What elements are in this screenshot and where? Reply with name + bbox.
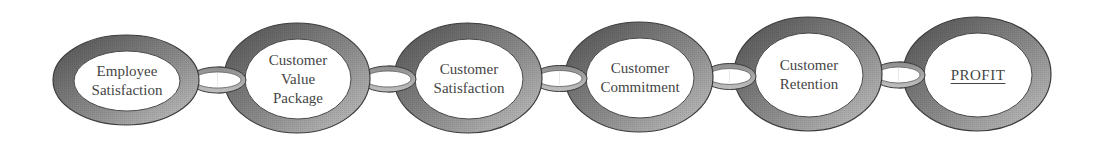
node-label-line: Package [273, 89, 323, 108]
node-label-customer-retention: CustomerRetention [755, 33, 863, 117]
node-label-line: Customer [780, 56, 838, 75]
node-label-customer-satisfaction: CustomerSatisfaction [415, 39, 523, 119]
node-label-line: Satisfaction [92, 81, 163, 100]
node-label-line: Satisfaction [434, 79, 505, 98]
node-label-profit: PROFIT [924, 33, 1032, 117]
node-label-line: Customer [611, 59, 669, 78]
node-label-line: Commitment [600, 78, 679, 97]
service-profit-chain-diagram: EmployeeSatisfactionCustomerValuePackage… [0, 0, 1099, 149]
node-label-customer-commitment: CustomerCommitment [586, 38, 694, 118]
node-label-line: Customer [440, 60, 498, 79]
node-label-line: Value [281, 70, 315, 89]
node-label-line: Customer [269, 51, 327, 70]
node-label-employee-satisfaction: EmployeeSatisfaction [74, 51, 180, 111]
node-label-line: PROFIT [951, 66, 1006, 85]
node-label-line: Retention [780, 75, 838, 94]
node-label-line: Employee [97, 62, 158, 81]
node-label-customer-value-package: CustomerValuePackage [245, 39, 351, 119]
